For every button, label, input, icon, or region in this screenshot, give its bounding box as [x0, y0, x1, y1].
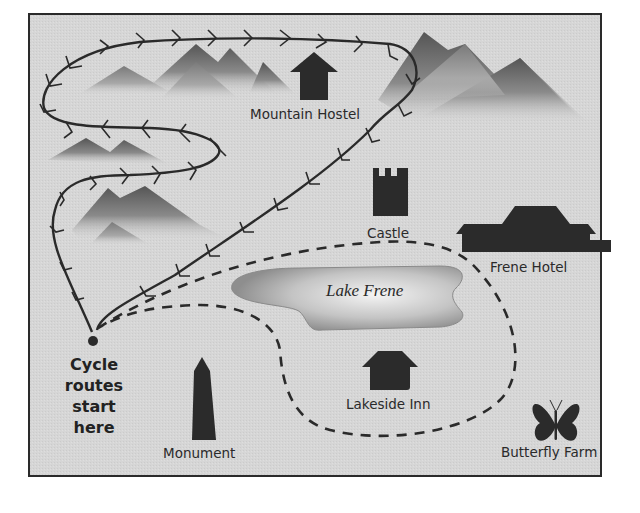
lake-frene-label: Lake Frene	[325, 281, 404, 300]
lakeside-inn-label: Lakeside Inn	[346, 396, 430, 412]
monument-label: Monument	[163, 445, 235, 461]
mountain-hostel-label: Mountain Hostel	[250, 106, 360, 122]
svg-text:routes: routes	[65, 376, 123, 395]
frene-hotel-label: Frene Hotel	[490, 259, 567, 275]
svg-text:start: start	[72, 397, 116, 416]
cycle-route-map: Lake Frene	[0, 0, 640, 513]
svg-text:here: here	[74, 418, 115, 437]
route-start-marker[interactable]	[88, 336, 98, 346]
castle-tower-icon	[373, 168, 408, 216]
butterfly-farm-label: Butterfly Farm	[501, 444, 597, 460]
castle-label: Castle	[367, 225, 409, 241]
svg-text:Cycle: Cycle	[70, 355, 118, 374]
landmark-castle[interactable]: Castle	[367, 168, 409, 241]
